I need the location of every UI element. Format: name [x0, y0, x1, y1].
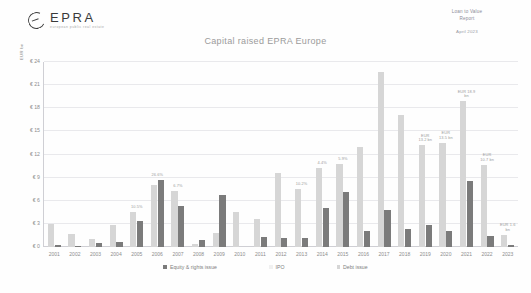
legend-item-debt[interactable]: Debt issue — [337, 264, 368, 270]
bar-equity[interactable] — [302, 238, 308, 247]
x-axis-label: 2018 — [399, 251, 410, 257]
bar-group: 5.9%2015 — [333, 62, 354, 247]
bar-data-label: 10.2% — [296, 182, 308, 187]
bar-equity[interactable] — [426, 225, 432, 247]
bar-data-label: EUR 18.9 bn — [458, 90, 476, 100]
bar-debt[interactable] — [89, 239, 95, 247]
document-title-line2: Report — [427, 16, 507, 23]
bar-group: 2017 — [374, 62, 395, 247]
bar-debt[interactable] — [316, 168, 322, 247]
bar-debt[interactable] — [501, 235, 507, 247]
bar-debt[interactable] — [254, 219, 260, 247]
bar-equity[interactable] — [323, 208, 329, 247]
bar-group: EUR 18.9 bn2021 — [456, 62, 477, 247]
bar-equity[interactable] — [96, 243, 102, 247]
bar-equity[interactable] — [75, 246, 81, 247]
bar-equity[interactable] — [261, 237, 267, 247]
bar-equity[interactable] — [55, 245, 61, 247]
x-axis-label: 2023 — [502, 251, 513, 257]
bar-equity[interactable] — [137, 221, 143, 247]
x-axis-label: 2020 — [440, 251, 451, 257]
bar-debt[interactable] — [171, 191, 177, 247]
bar-equity[interactable] — [384, 210, 390, 247]
bar-debt[interactable] — [398, 115, 404, 247]
y-axis-tick: € 15 — [30, 127, 40, 133]
bar-group: 6.7%2007 — [168, 62, 189, 247]
brand-text-block: EPRA european public real estate — [50, 11, 104, 29]
x-axis-label: 2008 — [193, 251, 204, 257]
bar-debt[interactable] — [481, 165, 487, 247]
bar-group: 2009 — [209, 62, 230, 247]
bar-data-label: 10.5% — [131, 205, 143, 210]
bar-data-label: 6.7% — [173, 184, 182, 189]
legend-label: IPO — [276, 264, 285, 270]
legend-item-ipo[interactable]: IPO — [269, 264, 285, 270]
bar-debt[interactable] — [460, 101, 466, 247]
x-axis-label: 2002 — [69, 251, 80, 257]
x-axis-label: 2012 — [275, 251, 286, 257]
bar-group: 2016 — [353, 62, 374, 247]
bar-group: EUR 13.2 bn2019 — [415, 62, 436, 247]
bar-series-container: 200120022003200410.5%200526.6%20066.7%20… — [44, 62, 518, 247]
x-axis-label: 2017 — [378, 251, 389, 257]
chart-legend: Equity & rights issueIPODebt issue — [0, 264, 531, 270]
bar-equity[interactable] — [158, 180, 164, 247]
x-axis-label: 2009 — [214, 251, 225, 257]
chart-title: Capital raised EPRA Europe — [0, 36, 531, 46]
bar-debt[interactable] — [48, 224, 54, 247]
bar-group: 2008 — [188, 62, 209, 247]
bar-equity[interactable] — [116, 242, 122, 247]
legend-label: Equity & rights issue — [170, 264, 217, 270]
bar-debt[interactable] — [192, 244, 198, 247]
bar-data-label: EUR 10.7 bn — [480, 153, 494, 163]
bar-group: 2018 — [394, 62, 415, 247]
bar-debt[interactable] — [110, 225, 116, 247]
bar-group: 10.5%2005 — [126, 62, 147, 247]
bar-group: EUR 10.7 bn2022 — [477, 62, 498, 247]
y-axis-tick: € 3 — [33, 220, 40, 226]
bar-debt[interactable] — [439, 143, 445, 247]
document-title-line1: Loan to Value — [427, 9, 507, 16]
bar-debt[interactable] — [233, 212, 239, 247]
x-axis-label: 2004 — [111, 251, 122, 257]
bar-equity[interactable] — [219, 195, 225, 247]
x-axis-label: 2007 — [172, 251, 183, 257]
bar-data-label: EUR 1.6 bn — [500, 223, 515, 233]
bar-equity[interactable] — [343, 192, 349, 248]
bar-debt[interactable] — [295, 189, 301, 247]
bar-equity[interactable] — [405, 229, 411, 247]
document-meta: Loan to Value Report April 2023 — [427, 9, 507, 34]
bar-debt[interactable] — [275, 173, 281, 247]
bar-debt[interactable] — [68, 234, 74, 247]
bar-equity[interactable] — [508, 245, 514, 247]
report-page: EPRA european public real estate Loan to… — [0, 0, 531, 293]
bar-debt[interactable] — [151, 185, 157, 247]
x-axis-label: 2011 — [255, 251, 266, 257]
bar-debt[interactable] — [357, 147, 363, 247]
bar-group: 26.6%2006 — [147, 62, 168, 247]
bar-debt[interactable] — [378, 72, 384, 247]
x-axis-label: 2014 — [317, 251, 328, 257]
bar-group: EUR 13.5 bn2020 — [436, 62, 457, 247]
bar-debt[interactable] — [213, 233, 219, 247]
bar-group: 2001 — [44, 62, 65, 247]
bar-data-label: 4.4% — [318, 161, 327, 166]
bar-equity[interactable] — [467, 181, 473, 247]
legend-item-equity[interactable]: Equity & rights issue — [163, 264, 217, 270]
bar-equity[interactable] — [281, 238, 287, 247]
legend-swatch-icon — [269, 265, 273, 269]
bar-debt[interactable] — [336, 164, 342, 247]
x-axis-label: 2021 — [461, 251, 472, 257]
bar-equity[interactable] — [178, 206, 184, 247]
bar-equity[interactable] — [364, 231, 370, 247]
y-axis-tick: € 0 — [33, 243, 40, 249]
bar-equity[interactable] — [487, 236, 493, 247]
bar-debt[interactable] — [419, 145, 425, 247]
bar-equity[interactable] — [199, 240, 205, 247]
bar-debt[interactable] — [130, 212, 136, 247]
bar-group: 10.2%2013 — [291, 62, 312, 247]
bar-group: 4.4%2014 — [312, 62, 333, 247]
bar-equity[interactable] — [446, 231, 452, 247]
bar-group: EUR 1.6 bn2023 — [497, 62, 518, 247]
y-axis-tick: € 18 — [30, 104, 40, 110]
